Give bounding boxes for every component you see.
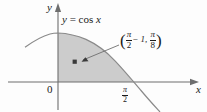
plot-canvas	[0, 0, 207, 112]
curve-equation-label: y = cos x	[62, 14, 101, 25]
curve-label-equals: =	[70, 13, 76, 25]
y-axis-arrowhead	[55, 3, 61, 12]
x-tick-label-pi-over-2: π 2	[122, 86, 128, 104]
origin-label: 0	[47, 84, 53, 95]
annotation-x-offset: − 1,	[132, 34, 147, 44]
annotation-content: π2− 1, π8	[126, 30, 156, 50]
annotation-close-paren: )	[156, 32, 162, 49]
fraction-denominator: 2	[122, 96, 128, 105]
centroid-point-marker	[73, 60, 77, 64]
fraction-pi-over-2: π 2	[122, 86, 128, 104]
curve-label-variable: x	[96, 13, 101, 25]
x-axis-label: x	[196, 84, 201, 95]
cosine-area-figure: y x 0 y = cos x π 2 (π2− 1, π8)	[0, 0, 207, 112]
curve-label-function: cos	[79, 13, 94, 25]
centroid-coordinate-annotation: (π2− 1, π8)	[120, 30, 162, 50]
y-axis-label: y	[47, 2, 52, 13]
curve-label-y: y	[62, 13, 67, 25]
